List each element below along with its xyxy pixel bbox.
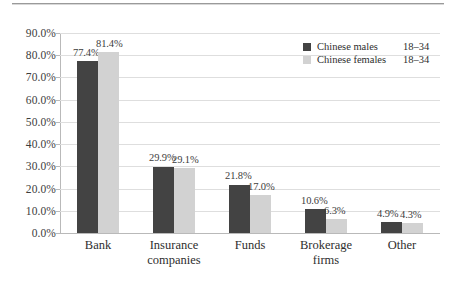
bar-value-label: 21.8% [225,171,252,182]
y-axis-tick-label: 70.0% [2,72,56,84]
bar-group: 29.9%29.1% [153,33,195,233]
y-axis-tick [56,233,60,234]
y-axis-tick [56,166,60,167]
bar-males[interactable] [153,167,174,233]
bar-value-label: 17.0% [248,182,275,193]
y-axis-tick-label: 60.0% [2,95,56,107]
x-axis-category-label-line: firms [280,253,372,268]
legend-age-range: 18–34 [403,40,429,53]
legend-series-name: Chinese males [317,40,403,53]
bar-group: 77.4%81.4% [77,33,119,233]
legend-color-swatch-icon [303,56,311,64]
y-axis-tick [56,144,60,145]
bar-group: 21.8%17.0% [229,33,271,233]
y-axis-tick [56,189,60,190]
y-axis-tick-label: 40.0% [2,139,56,151]
y-axis-tick [56,77,60,78]
x-axis-category-label: Other [356,238,448,253]
y-axis-tick-label: 50.0% [2,117,56,129]
y-axis-tick-label: 80.0% [2,50,56,62]
chart-legend: Chinese males18–34Chinese females18–34 [303,40,429,66]
bar-females[interactable] [402,223,423,233]
bar-value-label: 6.3% [324,206,345,217]
y-axis-tick-label: 30.0% [2,161,56,173]
bar-value-label: 4.3% [400,210,421,221]
y-axis-tick-label: 0.0% [2,228,56,240]
bar-value-label: 4.9% [377,209,398,220]
legend-age-range: 18–34 [403,53,429,66]
chart-figure: 90.0%80.0%70.0%60.0%50.0%40.0%30.0%20.0%… [0,0,455,281]
bar-males[interactable] [77,61,98,233]
x-axis-category-label-line: companies [128,253,220,268]
bar-females[interactable] [98,52,119,233]
y-axis-tick-label: 20.0% [2,184,56,196]
bar-males[interactable] [305,209,326,233]
y-axis-tick [56,100,60,101]
y-axis-tick [56,33,60,34]
legend-item[interactable]: Chinese males18–34 [303,40,429,53]
top-divider-rule-shadow [12,4,444,5]
legend-color-swatch-icon [303,43,311,51]
bar-females[interactable] [326,219,347,233]
bar-males[interactable] [381,222,402,233]
bar-females[interactable] [174,168,195,233]
y-axis-tick [56,211,60,212]
bar-females[interactable] [250,195,271,233]
y-axis-tick-label: 90.0% [2,28,56,40]
bar-value-label: 81.4% [96,39,123,50]
y-axis-tick-labels: 90.0%80.0%70.0%60.0%50.0%40.0%30.0%20.0%… [0,33,56,234]
y-axis-tick [56,122,60,123]
bar-value-label: 29.1% [172,155,199,166]
x-axis-line [60,233,440,234]
y-axis-tick-label: 10.0% [2,206,56,218]
legend-item[interactable]: Chinese females18–34 [303,53,429,66]
x-axis-category-label-line: Other [356,238,448,253]
bar-males[interactable] [229,185,250,233]
legend-series-name: Chinese females [317,53,403,66]
y-axis-tick [56,55,60,56]
